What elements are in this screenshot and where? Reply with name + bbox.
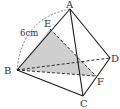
vertex-label-a: A: [65, 0, 74, 10]
vertex-label-b: B: [4, 65, 11, 76]
vertex-label-c: C: [80, 98, 88, 109]
diagram-canvas: A B C D E F 6cm: [0, 0, 120, 109]
measurement-label: 6cm: [20, 28, 38, 38]
vertex-label-e: E: [44, 18, 51, 29]
vertex-label-d: D: [111, 53, 119, 64]
tetrahedron-diagram: A B C D E F 6cm: [0, 0, 120, 109]
vertex-label-f: F: [97, 76, 104, 87]
